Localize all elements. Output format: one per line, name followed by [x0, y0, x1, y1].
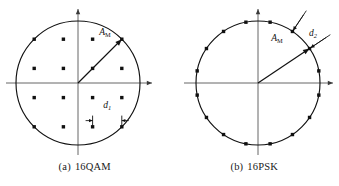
constellation-point [195, 93, 198, 96]
caption-tag-b: (b) [230, 161, 243, 172]
constellation-point [33, 96, 36, 99]
constellation-figure: AMd1AMd2 (a)16QAM (b)16PSK [0, 0, 339, 186]
constellation-point [195, 69, 198, 72]
panel-16qam: AMd1 [6, 9, 152, 155]
caption-label-16psk: 16PSK [247, 161, 278, 172]
constellation-point [33, 67, 36, 70]
constellation-point [244, 142, 247, 145]
caption-16qam: (a)16QAM [0, 160, 170, 186]
panel-16qam-distance-annotation: d1 [86, 100, 129, 126]
panel-16qam-amplitude-vector [78, 41, 120, 83]
constellation-point [91, 125, 94, 128]
constellation-point [91, 96, 94, 99]
constellation-point [268, 20, 271, 23]
constellation-point [268, 142, 271, 145]
panel-16qam-distance-label: d1 [103, 100, 111, 111]
constellation-point [120, 67, 123, 70]
constellation-point [120, 96, 123, 99]
panel-16psk-y-axis-arrow-icon [256, 9, 260, 14]
panel-16qam-y-axis-arrow-icon [76, 9, 80, 14]
panel-16psk-x-axis-arrow-icon [328, 81, 333, 85]
panel-16psk-amplitude-vector [258, 50, 307, 83]
constellation-point [62, 67, 65, 70]
constellation-point [205, 47, 208, 50]
dimension-arrow-icon [89, 119, 93, 122]
dimension-arrow-icon [293, 26, 297, 31]
constellation-point [91, 38, 94, 41]
constellation-point [291, 133, 294, 136]
caption-16psk: (b)16PSK [170, 160, 339, 186]
caption-row: (a)16QAM (b)16PSK [0, 160, 339, 186]
constellation-point [222, 30, 225, 33]
panel-16qam-amplitude-label: AM [98, 27, 111, 38]
constellation-point [62, 38, 65, 41]
caption-tag-a: (a) [59, 161, 71, 172]
constellation-point [205, 116, 208, 119]
constellation-point [62, 125, 65, 128]
constellation-point [33, 38, 36, 41]
dimension-arrow-icon [310, 44, 315, 48]
caption-label-16qam: 16QAM [75, 161, 111, 172]
panel-16psk-distance-annotation: d2 [293, 11, 330, 48]
constellation-point [308, 116, 311, 119]
panel-16psk-amplitude-vector-arrow-icon [303, 49, 310, 55]
constellation-point [120, 125, 123, 128]
constellation-point [62, 96, 65, 99]
panel-16psk-distance-label: d2 [309, 28, 318, 39]
constellation-point [244, 20, 247, 23]
constellation-svg: AMd1AMd2 [0, 0, 339, 186]
dimension-arrow-icon [122, 119, 126, 122]
panel-16qam-x-axis-arrow-icon [147, 81, 152, 85]
panel-16psk: AMd2 [184, 9, 333, 155]
constellation-point [222, 133, 225, 136]
panel-16psk-amplitude-label: AM [270, 33, 283, 44]
constellation-point [317, 93, 320, 96]
constellation-point [33, 125, 36, 128]
constellation-point [317, 69, 320, 72]
